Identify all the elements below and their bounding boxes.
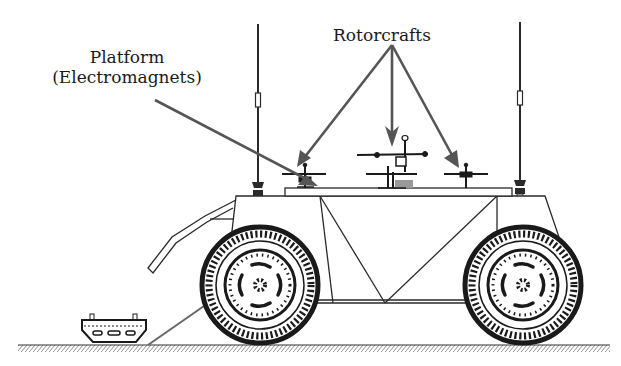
rotorcraft-right — [444, 163, 488, 188]
platform-label-line1: Platform — [52, 47, 202, 67]
rear-antenna — [514, 22, 526, 194]
rotorcraft-arrows — [297, 45, 459, 168]
ground — [18, 345, 610, 352]
platform — [285, 188, 512, 196]
ramp — [148, 306, 204, 345]
front-wheel — [202, 227, 318, 343]
platform-label: Platform (Electromagnets) — [52, 47, 202, 87]
small-tracked-robot — [82, 314, 146, 342]
platform-label-line2: (Electromagnets) — [52, 67, 202, 87]
platform-leader-line — [155, 100, 318, 186]
rear-wheel — [465, 227, 581, 343]
rotorcrafts-label: Rotorcrafts — [322, 25, 442, 45]
front-antenna — [252, 24, 264, 196]
